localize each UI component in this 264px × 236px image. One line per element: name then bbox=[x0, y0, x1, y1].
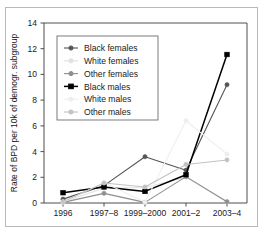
legend-label-5: Other males bbox=[84, 107, 131, 117]
data-point bbox=[61, 190, 66, 195]
x-tick-2001-2: 2001–2 bbox=[172, 208, 201, 218]
data-point bbox=[184, 172, 189, 177]
y-tick-14: 14 bbox=[28, 18, 38, 28]
legend-marker bbox=[69, 72, 73, 76]
x-tick-1997-8: 1997–8 bbox=[90, 208, 119, 218]
y-axis-ticks bbox=[41, 23, 45, 203]
data-point bbox=[225, 200, 229, 204]
legend-marker bbox=[69, 97, 73, 101]
legend-label-4: White males bbox=[84, 94, 131, 104]
legend-marker bbox=[69, 110, 73, 114]
data-point bbox=[143, 200, 147, 204]
data-point bbox=[143, 185, 147, 189]
data-point bbox=[225, 158, 229, 162]
legend-marker bbox=[69, 84, 74, 89]
line-chart: 0 2 4 6 8 10 12 14 1996 1997–8 1999–2000… bbox=[0, 0, 264, 236]
data-point bbox=[143, 155, 147, 159]
data-point bbox=[225, 83, 229, 87]
data-point bbox=[143, 189, 148, 194]
y-tick-4: 4 bbox=[32, 147, 37, 157]
data-point bbox=[102, 191, 106, 195]
legend-label-3: Black males bbox=[84, 82, 130, 92]
data-point bbox=[184, 162, 188, 166]
chart-legend: Black femalesWhite femalesOther femalesB… bbox=[57, 36, 158, 120]
data-point bbox=[184, 119, 188, 123]
y-tick-12: 12 bbox=[28, 44, 38, 54]
x-tick-labels: 1996 1997–8 1999–2000 2001–2 2003–4 bbox=[54, 208, 242, 218]
data-point bbox=[61, 200, 65, 204]
data-point bbox=[225, 152, 229, 156]
x-tick-1999-2000: 1999–2000 bbox=[124, 208, 167, 218]
y-tick-8: 8 bbox=[32, 95, 37, 105]
legend-marker bbox=[69, 46, 73, 50]
x-tick-1996: 1996 bbox=[54, 208, 73, 218]
chart-figure: 0 2 4 6 8 10 12 14 1996 1997–8 1999–2000… bbox=[0, 0, 264, 236]
x-tick-2003-4: 2003–4 bbox=[213, 208, 242, 218]
legend-label-1: White females bbox=[84, 56, 138, 66]
legend-marker bbox=[69, 59, 73, 63]
y-tick-labels: 0 2 4 6 8 10 12 14 bbox=[28, 18, 38, 208]
y-tick-10: 10 bbox=[28, 69, 38, 79]
data-point bbox=[102, 181, 106, 185]
legend-label-0: Black females bbox=[84, 43, 138, 53]
y-tick-2: 2 bbox=[32, 172, 37, 182]
y-tick-6: 6 bbox=[32, 121, 37, 131]
y-axis-title: Rate of BPD per 10k of demogr. subgroup bbox=[9, 34, 19, 193]
y-tick-0: 0 bbox=[32, 198, 37, 208]
series-line bbox=[63, 160, 227, 202]
data-point bbox=[225, 52, 230, 57]
legend-label-2: Other females bbox=[84, 69, 138, 79]
